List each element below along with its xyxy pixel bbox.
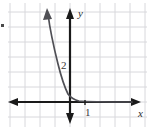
y-axis-tick-label-2: 2: [61, 60, 67, 71]
x-axis-label: x: [138, 108, 143, 119]
curve-arrowhead: [43, 8, 52, 20]
grid-lines: [8, 3, 147, 127]
left-edge-artifact-mark: [1, 24, 4, 27]
exponential-curve: [43, 8, 132, 102]
graph-figure: y x 2 1: [0, 0, 149, 130]
y-axis: [66, 8, 74, 124]
y-axis-top-arrowhead: [66, 8, 74, 19]
y-axis-label: y: [78, 8, 83, 19]
x-axis-tick-label-1: 1: [85, 107, 91, 118]
y-axis-bottom-arrowhead: [66, 113, 74, 124]
coordinate-plot: [0, 0, 149, 130]
